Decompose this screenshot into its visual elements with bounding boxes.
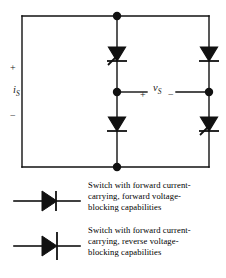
legend-text-line: carrying, forward voltage-	[88, 191, 226, 202]
legend: Switch with forward current- carrying, f…	[0, 176, 226, 278]
legend-text-line: carrying, reverse voltage-	[88, 236, 226, 247]
legend-entry-text: Switch with forward current- carrying, r…	[88, 225, 226, 259]
circuit-svg	[0, 0, 226, 176]
switch-forward-voltage-blocking-symbol	[12, 186, 82, 216]
legend1-triangle	[42, 236, 57, 256]
switch-top-right-triangle	[201, 47, 218, 61]
node-top-center	[113, 12, 121, 20]
switch-bottom-left	[107, 117, 127, 131]
figure-root: + iS − + vS − Switch with forward	[0, 0, 226, 278]
legend-text-line: Switch with forward current-	[88, 225, 226, 236]
source-minus-sign: −	[10, 110, 16, 121]
node-bottom-center	[113, 163, 121, 171]
output-plus-sign: +	[140, 89, 146, 100]
switch-bottom-right-triangle	[201, 117, 218, 131]
legend-text-line: blocking capabilities	[88, 202, 226, 213]
legend0-triangle	[42, 191, 57, 211]
switch-top-right	[199, 47, 219, 61]
switch-reverse-voltage-blocking-symbol	[12, 231, 82, 261]
legend-entry: Switch with forward current- carrying, r…	[0, 225, 226, 271]
legend-entry: Switch with forward current- carrying, f…	[0, 180, 226, 226]
switch-bottom-left-triangle	[109, 117, 126, 131]
source-current-subscript: S	[16, 89, 20, 98]
output-voltage-label: vS	[153, 82, 161, 96]
source-plus-sign: +	[10, 62, 16, 73]
node-mid-right	[205, 88, 213, 96]
legend-entry-text: Switch with forward current- carrying, f…	[88, 180, 226, 214]
legend-text-line: Switch with forward current-	[88, 180, 226, 191]
circuit-schematic: + iS − + vS −	[0, 0, 226, 176]
output-voltage-subscript: S	[158, 87, 162, 96]
switch-top-left-triangle	[109, 47, 126, 61]
output-minus-sign: −	[168, 89, 174, 100]
source-current-label: iS	[13, 84, 20, 98]
node-mid-center	[113, 88, 121, 96]
legend-text-line: blocking capabilities	[88, 247, 226, 258]
